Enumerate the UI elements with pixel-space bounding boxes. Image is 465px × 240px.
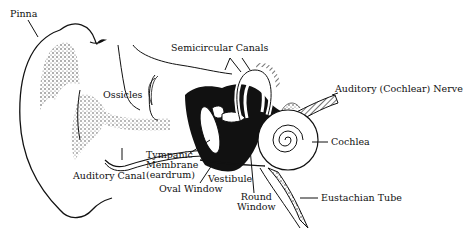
label-eustachian-tube: Eustachian Tube (321, 193, 402, 203)
label-tympanic-line-3: (eardrum) (146, 170, 198, 180)
cochlea-shape (258, 110, 318, 170)
label-oval-window: Oval Window (159, 184, 223, 194)
label-semicircular-canals: Semicircular Canals (171, 43, 268, 53)
label-auditory-canal: Auditory Canal (73, 171, 145, 181)
label-auditory-nerve: Auditory (Cochlear) Nerve (335, 84, 463, 94)
label-cochlea: Cochlea (331, 137, 370, 147)
label-tympanic-membrane: Tympanic Membrane (eardrum) (146, 150, 198, 180)
label-round-window: Round Window (237, 192, 276, 212)
label-ossicles: Ossicles (103, 90, 142, 100)
label-pinna: Pinna (10, 9, 37, 19)
ear-anatomy-diagram: Pinna Ossicles Semicircular Canals Audit… (0, 0, 465, 240)
label-round-window-line-2: Window (237, 202, 276, 212)
ear-illustration (0, 0, 465, 240)
